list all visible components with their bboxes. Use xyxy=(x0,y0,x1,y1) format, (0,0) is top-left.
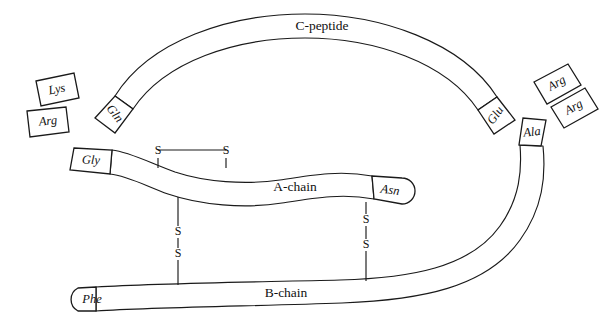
phe-label: Phe xyxy=(81,292,102,306)
gly-label: Gly xyxy=(82,152,101,167)
sulfur-interchain-left-lower: S xyxy=(175,246,182,260)
proinsulin-svg: C-peptide A-chain B-chain Lys Arg Gln Gl… xyxy=(0,0,609,336)
c-peptide-label: C-peptide xyxy=(295,18,348,33)
ala-label: Ala xyxy=(522,124,542,140)
a-chain-ribbon xyxy=(110,150,374,206)
sulfur-intrachain-right: S xyxy=(223,143,230,157)
proinsulin-diagram: C-peptide A-chain B-chain Lys Arg Gln Gl… xyxy=(0,0,609,336)
sulfur-interchain-left-upper: S xyxy=(175,224,182,238)
sulfur-interchain-right-lower: S xyxy=(363,237,370,251)
sulfur-interchain-right-upper: S xyxy=(363,212,370,226)
arg-left-label: Arg xyxy=(37,113,58,129)
sulfur-intrachain-left: S xyxy=(155,143,162,157)
intrachain-disulfide-bond xyxy=(158,150,226,168)
a-chain-label: A-chain xyxy=(273,179,317,194)
asn-label: Asn xyxy=(379,182,401,199)
b-chain-label: B-chain xyxy=(265,285,308,300)
